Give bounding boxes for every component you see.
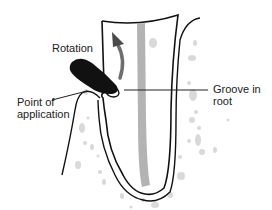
label-rotation: Rotation xyxy=(52,42,93,54)
root-canal xyxy=(137,23,150,187)
label-point-line1: Point of xyxy=(17,96,70,108)
label-groove-in-root: Groove in root xyxy=(213,83,261,107)
label-groove-line1: Groove in xyxy=(213,83,261,95)
rotation-arrow-head xyxy=(112,32,124,47)
bone-speckles xyxy=(75,38,230,209)
label-point-of-application: Point of application xyxy=(17,96,70,120)
instrument-blade xyxy=(70,59,118,94)
label-groove-line2: root xyxy=(213,95,261,107)
diagram-canvas: Rotation Point of application Groove in … xyxy=(0,0,272,210)
rotation-arrow-shaft xyxy=(118,45,123,78)
label-point-line2: application xyxy=(17,108,70,120)
